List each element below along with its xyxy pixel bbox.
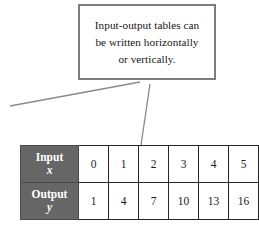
output-cell-2: 4 (109, 183, 139, 220)
row-header-input: Input x (21, 146, 79, 183)
row-header-input-label: Input (21, 151, 78, 165)
output-cell-4: 10 (169, 183, 199, 220)
callout-box: Input-output tables can be written horiz… (78, 4, 216, 80)
input-cell-3: 2 (139, 146, 169, 183)
leader-line-down (141, 84, 150, 145)
callout-line-3: or vertically. (118, 51, 175, 68)
row-header-output-label: Output (21, 188, 78, 202)
row-header-input-variable: x (21, 164, 78, 178)
row-header-output-variable: y (21, 201, 78, 215)
output-cell-5: 13 (199, 183, 229, 220)
table-row: Input x 0 1 2 3 4 5 (21, 146, 259, 183)
callout-line-1: Input-output tables can (95, 17, 199, 34)
table-row: Output y 1 4 7 10 13 16 (21, 183, 259, 220)
callout-line-2: be written horizontally (95, 34, 198, 51)
output-cell-6: 16 (229, 183, 259, 220)
input-cell-1: 0 (79, 146, 109, 183)
row-header-output: Output y (21, 183, 79, 220)
input-output-table: Input x 0 1 2 3 4 5 Output y 1 4 7 10 13… (20, 145, 259, 220)
output-cell-1: 1 (79, 183, 109, 220)
input-cell-4: 3 (169, 146, 199, 183)
output-cell-3: 7 (139, 183, 169, 220)
input-cell-2: 1 (109, 146, 139, 183)
input-cell-5: 4 (199, 146, 229, 183)
input-cell-6: 5 (229, 146, 259, 183)
leader-line-left (10, 82, 140, 106)
